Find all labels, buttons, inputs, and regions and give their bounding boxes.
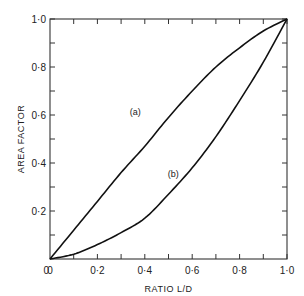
y-tick-label: 0·8: [32, 62, 47, 73]
curves: [50, 19, 287, 259]
x-tick-label: 0·4: [138, 265, 153, 276]
plot-frame: [50, 19, 287, 259]
x-tick-label: 1·0: [280, 265, 295, 276]
origin-label: 0: [43, 265, 49, 276]
x-tick-label: 0·8: [232, 265, 247, 276]
x-tick-label: 0·2: [90, 265, 105, 276]
x-axis-title: RATIO L/D: [145, 284, 193, 294]
curve-b: [50, 19, 287, 259]
axes: [50, 19, 287, 259]
y-tick-label: 0·4: [32, 158, 47, 169]
y-axis-title: AREA FACTOR: [16, 105, 26, 173]
curve-a: [50, 19, 287, 259]
y-tick-label: 1·0: [32, 14, 47, 25]
x-tick-label: 0·6: [185, 265, 200, 276]
ticks: [50, 19, 287, 259]
labels: 00·20·40·60·81·00·20·40·60·81·0RATIO L/D…: [16, 14, 295, 295]
y-tick-label: 0·2: [32, 206, 47, 217]
curve-label-b: (b): [168, 169, 179, 179]
area-factor-chart: 00·20·40·60·81·00·20·40·60·81·0RATIO L/D…: [0, 0, 304, 296]
y-tick-label: 0·6: [32, 110, 47, 121]
curve-label-a: (a): [130, 107, 141, 117]
